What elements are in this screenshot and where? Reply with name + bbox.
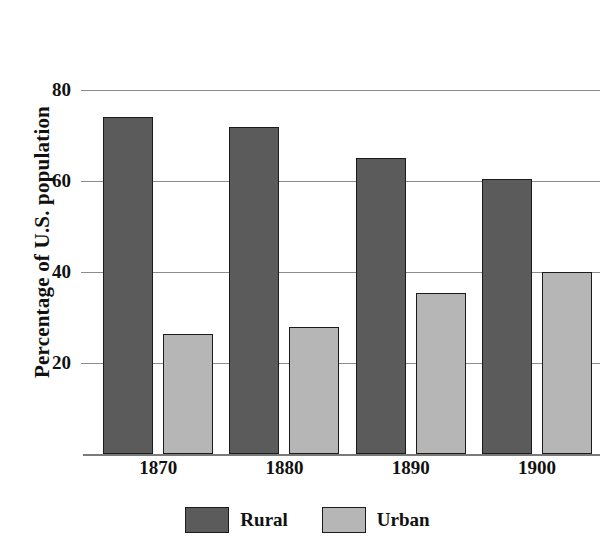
y-tick-mark-40 <box>81 272 95 273</box>
y-tick-label-60: 60 <box>37 171 71 190</box>
bar-1890-urban <box>416 293 466 454</box>
chart-legend: RuralUrban <box>0 500 615 540</box>
x-tick-label-1880: 1880 <box>265 458 303 477</box>
y-tick-label-20: 20 <box>37 353 71 372</box>
legend-swatch-urban-icon <box>322 507 366 533</box>
bar-1880-rural <box>229 127 279 454</box>
legend-label-rural: Rural <box>240 509 288 531</box>
y-tick-label-40: 40 <box>37 262 71 281</box>
legend-item-urban[interactable]: Urban <box>322 507 430 533</box>
bar-chart: Percentage of U.S. population 80604020 1… <box>0 0 615 558</box>
legend-swatch-rural-icon <box>185 507 229 533</box>
x-tick-label-1900: 1900 <box>518 458 556 477</box>
x-axis-tick-labels: 1870188018901900 <box>95 458 600 488</box>
bar-1900-rural <box>482 179 532 454</box>
plot-area <box>95 72 600 454</box>
gridline-80 <box>95 90 600 91</box>
x-tick-label-1890: 1890 <box>392 458 430 477</box>
bar-1900-urban <box>542 272 592 454</box>
bar-1870-urban <box>163 334 213 455</box>
bar-1880-urban <box>289 327 339 454</box>
y-tick-label-80: 80 <box>37 80 71 99</box>
bar-1870-rural <box>103 117 153 454</box>
y-tick-mark-20 <box>81 363 95 364</box>
x-tick-label-1870: 1870 <box>139 458 177 477</box>
legend-item-rural[interactable]: Rural <box>185 507 288 533</box>
bar-1890-rural <box>356 158 406 454</box>
y-tick-mark-60 <box>81 181 95 182</box>
x-axis-line <box>83 454 600 456</box>
legend-label-urban: Urban <box>377 509 430 531</box>
y-tick-mark-80 <box>81 90 95 91</box>
